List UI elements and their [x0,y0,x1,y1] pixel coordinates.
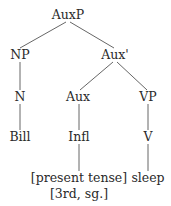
node-infl: Infl [68,131,89,144]
edge-auxbar-vp [117,62,147,90]
node-auxp: AuxP [52,9,85,22]
node-aux: Aux [66,91,90,104]
node-n: N [15,91,26,104]
node-sleep: sleep [131,172,164,185]
node-v: V [143,131,152,144]
node-bill: Bill [9,131,30,144]
edge-auxbar-aux [80,62,113,90]
syntax-tree: AuxPNPAux'NAuxVPBillInflV[present tense]… [0,0,171,206]
edge-auxp-auxbar [70,22,114,48]
node-third-sg: [3rd, sg.] [50,188,108,201]
node-vp: VP [139,91,156,104]
edge-auxp-np [20,22,66,48]
node-auxbar: Aux' [101,49,129,62]
node-present-tense: [present tense] [31,172,127,185]
node-np: NP [10,49,29,62]
